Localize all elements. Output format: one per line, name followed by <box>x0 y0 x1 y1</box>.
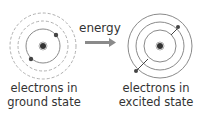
arrow-head-icon <box>109 38 116 47</box>
caption-line: ground state <box>0 95 88 109</box>
electron <box>54 33 58 37</box>
excitation-arrow <box>171 29 177 35</box>
excited-state-caption: electrons in excited state <box>112 81 200 109</box>
ground-state-atom <box>10 13 76 79</box>
electron <box>134 69 138 73</box>
energy-arrow <box>85 38 116 47</box>
nucleus <box>40 43 46 49</box>
caption-line: electrons in <box>112 81 200 95</box>
arrow-shaft <box>85 41 109 44</box>
excited-state-atom <box>128 14 192 78</box>
nucleus <box>157 43 163 49</box>
caption-line: excited state <box>112 95 200 109</box>
caption-line: electrons in <box>0 81 88 95</box>
excitation-arrow <box>137 59 148 70</box>
electron <box>29 57 33 61</box>
electron <box>176 25 180 29</box>
energy-label: energy <box>79 21 121 35</box>
ground-state-caption: electrons in ground state <box>0 81 88 109</box>
